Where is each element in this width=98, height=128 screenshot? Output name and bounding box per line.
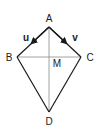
vector-v-arrow-icon xyxy=(49,27,65,42)
vector-u-arrow-icon xyxy=(33,27,49,42)
midpoint-label-m: M xyxy=(53,58,61,69)
vertex-label-b: B xyxy=(6,52,13,63)
vertex-label-d: D xyxy=(45,116,52,127)
kite-diagram: A B C D M u v xyxy=(0,0,98,128)
vector-label-u: u xyxy=(23,32,29,43)
vector-label-v: v xyxy=(72,32,78,43)
edge-bd xyxy=(17,57,49,112)
vertex-label-c: C xyxy=(86,52,93,63)
vertex-label-a: A xyxy=(46,13,53,24)
